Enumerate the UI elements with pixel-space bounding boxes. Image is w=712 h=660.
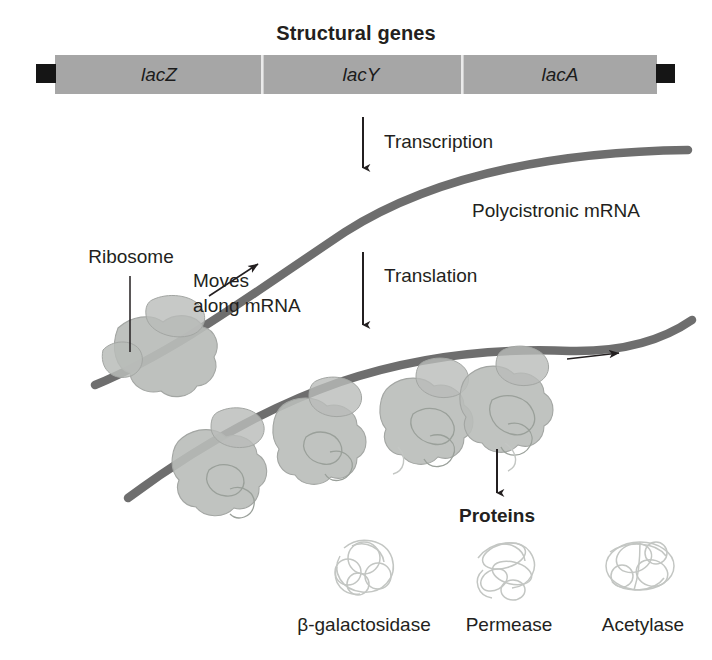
gene-label-lacz: lacZ [141,64,177,85]
ribosome-polysome-2 [273,377,366,484]
protein-glyph-acetylase [606,539,674,591]
polycistronic-mrna-label: Polycistronic mRNA [472,200,640,221]
protein-glyph-beta-galactosidase [335,540,393,595]
gene-label-lacy: lacY [343,64,380,85]
gene-divider-lacY-lacA [461,55,464,94]
gene-divider-lacZ-lacY [261,55,264,94]
protein-label-acetylase: Acetylase [602,614,684,635]
ribosome-polysome-4 [460,346,553,471]
diagram-graphics [0,0,712,660]
operon-left-terminal-block [36,64,56,83]
protein-glyph-permease [477,538,534,600]
protein-label-beta-galactosidase: β-galactosidase [297,614,430,635]
translation-label: Translation [384,265,477,286]
ribosome-polysome-1 [172,408,267,518]
ribosome-label: Ribosome [88,246,174,267]
proteins-heading: Proteins [459,505,535,526]
lac-operon-expression-diagram: Structural genes lacZ lacY lacA Transcri… [0,0,712,660]
ribosome-polysome-3 [380,358,473,474]
moves-along-mrna-label-line1: Moves [193,270,249,291]
protein-label-permease: Permease [466,614,553,635]
operon-right-terminal-block [656,64,675,83]
gene-label-laca: lacA [542,64,579,85]
figure-title: Structural genes [276,22,435,44]
transcription-label: Transcription [384,131,493,152]
moves-along-mrna-label-line2: along mRNA [193,295,301,316]
